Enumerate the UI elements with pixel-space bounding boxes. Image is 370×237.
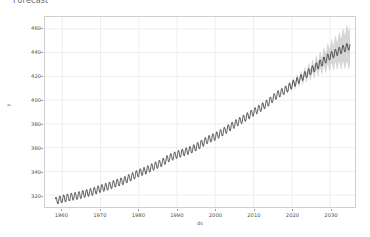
x-tick-mark bbox=[61, 209, 62, 211]
x-tick-label: 2030 bbox=[324, 212, 337, 218]
y-tick-label: 460 bbox=[31, 25, 41, 31]
x-tick-mark bbox=[215, 209, 216, 211]
y-tick-mark bbox=[41, 52, 43, 53]
data-series-layer bbox=[45, 17, 355, 207]
x-tick-label: 2000 bbox=[209, 212, 222, 218]
x-tick-label: 1990 bbox=[170, 212, 183, 218]
x-tick-mark bbox=[177, 209, 178, 211]
y-axis-title: y bbox=[5, 104, 11, 107]
y-tick-label: 380 bbox=[31, 121, 41, 127]
x-tick-mark bbox=[292, 209, 293, 211]
y-tick-mark bbox=[41, 172, 43, 173]
matplotlib-figure: 320340360380400420440460 196019701980199… bbox=[0, 9, 370, 237]
x-tick-label: 1960 bbox=[55, 212, 68, 218]
x-tick-mark bbox=[100, 209, 101, 211]
x-tick-label: 1980 bbox=[132, 212, 145, 218]
x-axis-title: ds bbox=[44, 220, 356, 226]
x-tick-mark bbox=[331, 209, 332, 211]
x-tick-mark bbox=[254, 209, 255, 211]
y-tick-mark bbox=[41, 148, 43, 149]
y-tick-label: 340 bbox=[31, 169, 41, 175]
plot-inner bbox=[45, 17, 355, 207]
y-tick-label: 400 bbox=[31, 97, 41, 103]
y-tick-mark bbox=[41, 124, 43, 125]
x-tick-label: 2010 bbox=[247, 212, 260, 218]
y-tick-label: 360 bbox=[31, 145, 41, 151]
x-tick-mark bbox=[138, 209, 139, 211]
y-axis-tick-labels: 320340360380400420440460 bbox=[0, 16, 41, 208]
clipped-header-text: Forecast bbox=[13, 0, 48, 5]
x-tick-label: 2020 bbox=[286, 212, 299, 218]
y-tick-label: 440 bbox=[31, 49, 41, 55]
y-tick-mark bbox=[41, 28, 43, 29]
y-tick-label: 420 bbox=[31, 73, 41, 79]
y-tick-mark bbox=[41, 100, 43, 101]
forecast-chart-screenshot: Forecast 320340360380400420440460 196019… bbox=[0, 0, 370, 237]
y-tick-label: 320 bbox=[31, 193, 41, 199]
clipped-header-strip: Forecast bbox=[0, 0, 370, 9]
plot-area bbox=[44, 16, 356, 208]
y-tick-mark bbox=[41, 76, 43, 77]
x-tick-label: 1970 bbox=[93, 212, 106, 218]
y-tick-mark bbox=[41, 196, 43, 197]
